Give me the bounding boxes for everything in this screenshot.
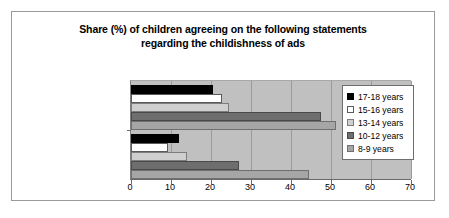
- legend-swatch-icon: [347, 145, 354, 152]
- legend-label: 17-18 years: [358, 92, 403, 102]
- y-axis-tick-mid: [127, 130, 131, 131]
- chart-title: Share (%) of children agreeing on the fo…: [12, 22, 434, 50]
- bar-3-0: [131, 112, 321, 121]
- gridline: [291, 81, 292, 179]
- chart-title-line-1: Share (%) of children agreeing on the fo…: [12, 22, 434, 36]
- legend-item[interactable]: 13-14 years: [347, 116, 410, 129]
- chart-legend: 17-18 years15-16 years13-14 years10-12 y…: [342, 85, 414, 160]
- gridline: [251, 81, 252, 179]
- x-axis-tick-label: 0: [115, 182, 145, 192]
- legend-item[interactable]: 17-18 years: [347, 90, 410, 103]
- bar-3-1: [131, 161, 239, 170]
- legend-swatch-icon: [347, 119, 354, 126]
- bar-4-0: [131, 121, 336, 130]
- bar-2-0: [131, 103, 229, 112]
- legend-label: 15-16 years: [358, 105, 403, 115]
- bar-0-1: [131, 134, 179, 143]
- x-axis-tick-label: 50: [315, 182, 345, 192]
- bar-4-1: [131, 170, 309, 179]
- gridline: [331, 81, 332, 179]
- x-axis-tick-label: 30: [235, 182, 265, 192]
- x-axis-tick-label: 60: [355, 182, 385, 192]
- bar-0-0: [131, 85, 213, 94]
- legend-label: 10-12 years: [358, 131, 403, 141]
- x-axis-tick-label: 40: [275, 182, 305, 192]
- x-axis-tick-label: 20: [195, 182, 225, 192]
- legend-item[interactable]: 15-16 years: [347, 103, 410, 116]
- legend-item[interactable]: 8-9 years: [347, 142, 410, 155]
- chart-title-line-2: regarding the childishness of ads: [12, 36, 434, 50]
- legend-swatch-icon: [347, 106, 354, 113]
- legend-label: 8-9 years: [358, 144, 394, 154]
- x-axis-tick-label: 70: [395, 182, 425, 192]
- legend-label: 13-14 years: [358, 118, 403, 128]
- legend-swatch-icon: [347, 132, 354, 139]
- x-axis-tick-label: 10: [155, 182, 185, 192]
- bar-1-0: [131, 94, 222, 103]
- chart-frame: Share (%) of children agreeing on the fo…: [11, 11, 435, 201]
- legend-item[interactable]: 10-12 years: [347, 129, 410, 142]
- x-axis-line: [130, 179, 411, 180]
- legend-swatch-icon: [347, 93, 354, 100]
- bar-1-1: [131, 143, 168, 152]
- bar-2-1: [131, 152, 187, 161]
